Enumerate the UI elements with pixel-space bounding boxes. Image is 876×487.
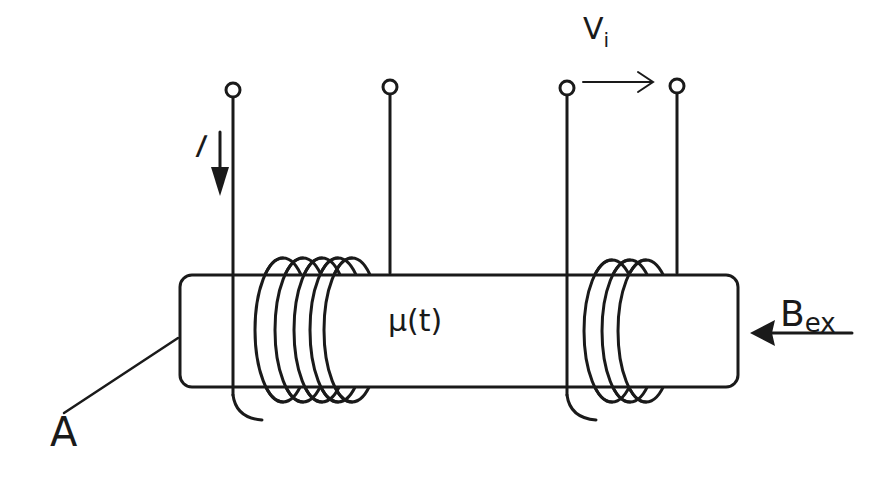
external-field-symbol: B	[780, 293, 805, 334]
induced-voltage-label: Vi	[583, 14, 609, 50]
magnetic-core-rod	[180, 275, 738, 387]
permeability-label: μ(t)	[388, 306, 442, 336]
core-area-label: A	[50, 412, 77, 452]
current-arrow-icon	[211, 132, 229, 196]
voltage-arrow-icon	[583, 72, 653, 92]
external-field-subscript: ex	[805, 308, 836, 338]
induced-voltage-symbol: V	[583, 11, 604, 46]
terminal-4	[670, 79, 684, 93]
external-field-label: Bex	[780, 296, 836, 336]
terminal-2	[383, 80, 397, 94]
terminal-1	[226, 83, 240, 97]
area-leader-line	[64, 338, 178, 413]
fluxgate-diagram	[0, 0, 876, 487]
terminal-3	[560, 81, 574, 95]
induced-voltage-subscript: i	[604, 28, 610, 52]
